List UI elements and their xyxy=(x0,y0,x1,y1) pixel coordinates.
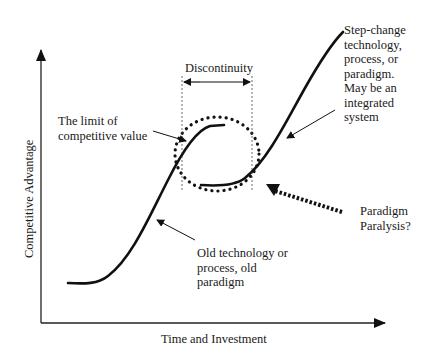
old-tech-pointer-arrow xyxy=(157,220,195,240)
discontinuity-circle xyxy=(175,117,259,191)
step-change-label: Step-change technology, process, or para… xyxy=(344,23,406,125)
limit-of-competitive-value-label: The limit of competitive value xyxy=(58,114,147,143)
paradigm-paralysis-label: Paradigm Paralysis? xyxy=(360,204,411,233)
y-axis-label: Competitive Advantage xyxy=(22,140,37,258)
step-change-pointer-arrow xyxy=(287,110,335,138)
discontinuity-label: Discontinuity xyxy=(185,61,253,76)
old-technology-label: Old technology or process, old paradigm xyxy=(197,246,288,290)
x-axis-label: Time and Investment xyxy=(161,332,267,347)
paralysis-pointer-arrow xyxy=(266,184,342,212)
new-s-curve xyxy=(201,32,343,185)
